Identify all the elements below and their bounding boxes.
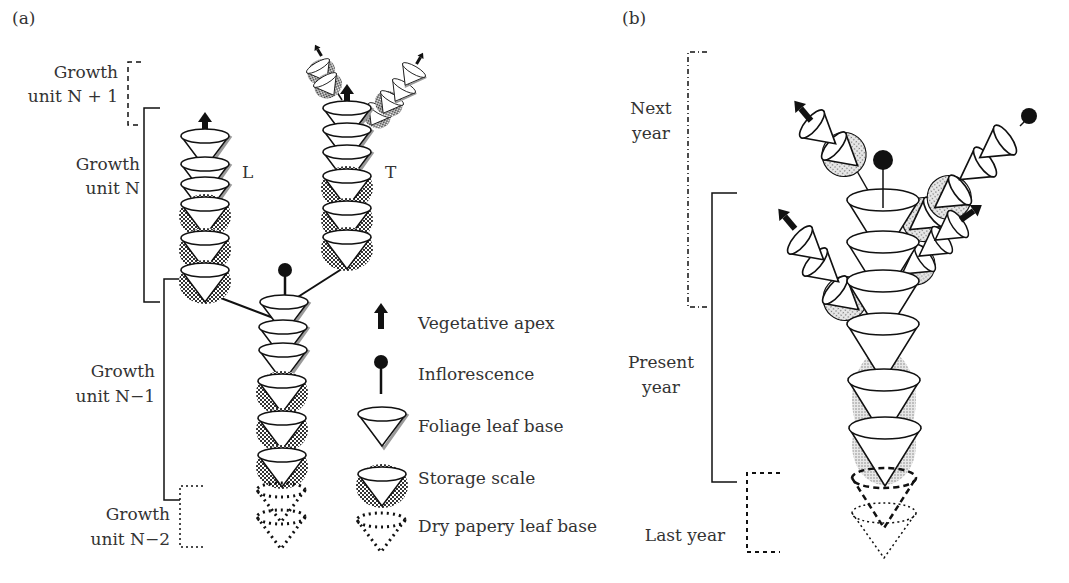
svg-text:unit N: unit N xyxy=(86,178,141,198)
branch-label-l: L xyxy=(242,162,253,182)
legend-item-inflorescence: Inflorescence xyxy=(374,355,534,394)
period-next-year: Next year xyxy=(630,52,707,307)
growth-unit-n: Growth unit N xyxy=(76,108,160,302)
panel-b: (b) Next year Present year Last year xyxy=(622,8,1037,558)
branch-label-t: T xyxy=(385,162,397,182)
bracket-dashed xyxy=(747,473,780,552)
svg-text:unit N + 1: unit N + 1 xyxy=(28,86,118,106)
storage-scale-icon xyxy=(356,464,408,508)
bracket-solid xyxy=(164,279,180,500)
growth-unit-n-minus-1: Growth unit N−1 xyxy=(75,279,180,500)
legend: Vegetative apex Inflorescence Foliage le… xyxy=(356,303,597,552)
bracket-solid xyxy=(712,193,737,482)
svg-text:Dry papery leaf base: Dry papery leaf base xyxy=(418,516,597,536)
svg-text:Present: Present xyxy=(628,352,694,372)
period-last-year: Last year xyxy=(645,473,780,552)
dry-papery-leaf-base-icon xyxy=(357,513,405,552)
terminal-branch-t: T xyxy=(303,43,428,271)
bulb-architecture-diagram: (a) Growth unit N + 1 Growth unit N Grow… xyxy=(0,0,1069,583)
panel-b-label: (b) xyxy=(622,8,646,28)
legend-item-storage-scale: Storage scale xyxy=(356,464,535,508)
panel-a: (a) Growth unit N + 1 Growth unit N Grow… xyxy=(12,8,428,549)
legend-item-dry-papery-leaf-base: Dry papery leaf base xyxy=(357,513,597,552)
svg-text:Foliage leaf base: Foliage leaf base xyxy=(418,416,564,436)
growth-unit-n-plus-1: Growth unit N + 1 xyxy=(28,62,141,125)
foliage-leaf-base-icon xyxy=(358,407,408,448)
inflorescence-icon xyxy=(1021,108,1037,124)
bracket-dotted xyxy=(180,486,203,547)
panel-a-label: (a) xyxy=(12,8,35,28)
period-present-year: Present year xyxy=(628,193,737,482)
svg-text:year: year xyxy=(631,123,671,143)
svg-text:Growth: Growth xyxy=(91,361,155,381)
legend-item-vegetative-apex: Vegetative apex xyxy=(374,303,555,333)
bracket-dashed xyxy=(128,62,141,125)
dry-leaf-base-dotted xyxy=(852,503,916,558)
bracket-dash-dot xyxy=(688,52,707,307)
vegetative-apex-icon xyxy=(374,303,388,329)
svg-text:Growth: Growth xyxy=(76,154,140,174)
main-axis-b xyxy=(847,150,921,558)
bracket-solid xyxy=(144,108,160,302)
svg-text:Growth: Growth xyxy=(106,504,170,524)
svg-text:unit N−1: unit N−1 xyxy=(75,386,155,406)
svg-text:Next: Next xyxy=(630,98,672,118)
svg-text:year: year xyxy=(641,377,681,397)
growth-unit-n-minus-2: Growth unit N−2 xyxy=(90,486,203,549)
svg-text:Growth: Growth xyxy=(54,62,118,82)
svg-text:Inflorescence: Inflorescence xyxy=(418,364,534,384)
svg-text:unit N−2: unit N−2 xyxy=(90,529,170,549)
legend-item-foliage-leaf-base: Foliage leaf base xyxy=(358,407,564,448)
svg-text:Vegetative apex: Vegetative apex xyxy=(417,313,555,333)
inflorescence-icon xyxy=(278,263,292,277)
inflorescence-icon xyxy=(873,150,893,170)
lateral-branch-l: L xyxy=(179,112,253,304)
svg-text:Last year: Last year xyxy=(645,525,726,545)
main-axis-a xyxy=(256,263,310,549)
svg-text:Storage scale: Storage scale xyxy=(418,468,535,488)
